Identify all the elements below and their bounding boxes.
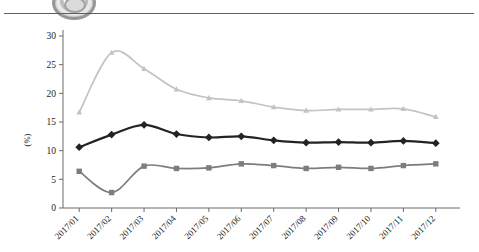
- x-tick-label: 2017/08: [280, 213, 308, 241]
- series-black-point: [205, 134, 213, 142]
- page-header-band: [0, 0, 479, 16]
- series-black-point: [237, 132, 245, 140]
- seal-inner-ring-icon: [64, 0, 86, 13]
- series-mid-gray-line: [79, 164, 436, 193]
- x-tick-label: 2017/10: [344, 213, 372, 241]
- x-tick-label: 2017/12: [409, 213, 437, 241]
- x-tick-label: 2017/06: [215, 213, 243, 241]
- series-black-line: [79, 125, 436, 147]
- x-tick-label: 2017/05: [182, 213, 210, 241]
- series-mid-gray-point: [141, 163, 146, 168]
- line-chart: 051015202530 2017/012017/022017/032017/0…: [0, 16, 479, 252]
- series-black-point: [270, 136, 278, 144]
- series-mid-gray-point: [109, 190, 114, 195]
- series-black-point: [335, 138, 343, 146]
- y-tick-label: 5: [51, 175, 56, 185]
- series-black-point: [432, 139, 440, 147]
- series-mid-gray-point: [336, 165, 341, 170]
- series-mid-gray-point: [174, 166, 179, 171]
- series-black-point: [173, 130, 181, 138]
- y-tick-label: 30: [47, 31, 57, 41]
- series-black-point: [108, 131, 116, 139]
- series-black-point: [400, 137, 408, 145]
- series-mid-gray-point: [303, 166, 308, 171]
- y-tick-label: 15: [47, 117, 57, 127]
- series-layer: [75, 50, 439, 196]
- x-tick-label: 2017/09: [312, 213, 340, 241]
- header-divider: [4, 13, 474, 14]
- series-mid-gray-point: [368, 166, 373, 171]
- series-mid-gray-point: [401, 163, 406, 168]
- chart-svg: 051015202530 2017/012017/022017/032017/0…: [0, 16, 479, 252]
- y-axis: 051015202530: [47, 30, 64, 213]
- y-tick-label: 10: [47, 146, 57, 156]
- series-black-point: [367, 139, 375, 147]
- y-tick-label: 0: [51, 203, 56, 213]
- series-mid-gray-point: [239, 161, 244, 166]
- series-mid-gray: [77, 161, 439, 195]
- x-tick-label: 2017/11: [377, 213, 405, 241]
- series-mid-gray-point: [77, 169, 82, 174]
- series-black-point: [140, 121, 148, 129]
- series-light-gray: [76, 50, 438, 119]
- x-tick-label: 2017/01: [53, 213, 81, 241]
- x-tick-label: 2017/02: [85, 213, 113, 241]
- x-tick-label: 2017/07: [247, 213, 275, 241]
- x-tick-label: 2017/04: [150, 213, 178, 241]
- series-mid-gray-point: [206, 165, 211, 170]
- series-black-point: [302, 139, 310, 147]
- y-tick-label: 25: [47, 60, 57, 70]
- series-black: [75, 121, 439, 151]
- y-tick-label: 20: [47, 89, 57, 99]
- x-tick-label: 2017/03: [118, 213, 146, 241]
- x-axis: 2017/012017/022017/032017/042017/052017/…: [53, 208, 460, 241]
- y-axis-title: (%): [22, 133, 32, 146]
- series-mid-gray-point: [271, 163, 276, 168]
- series-light-gray-line: [79, 51, 436, 117]
- series-black-point: [75, 143, 83, 151]
- series-mid-gray-point: [433, 161, 438, 166]
